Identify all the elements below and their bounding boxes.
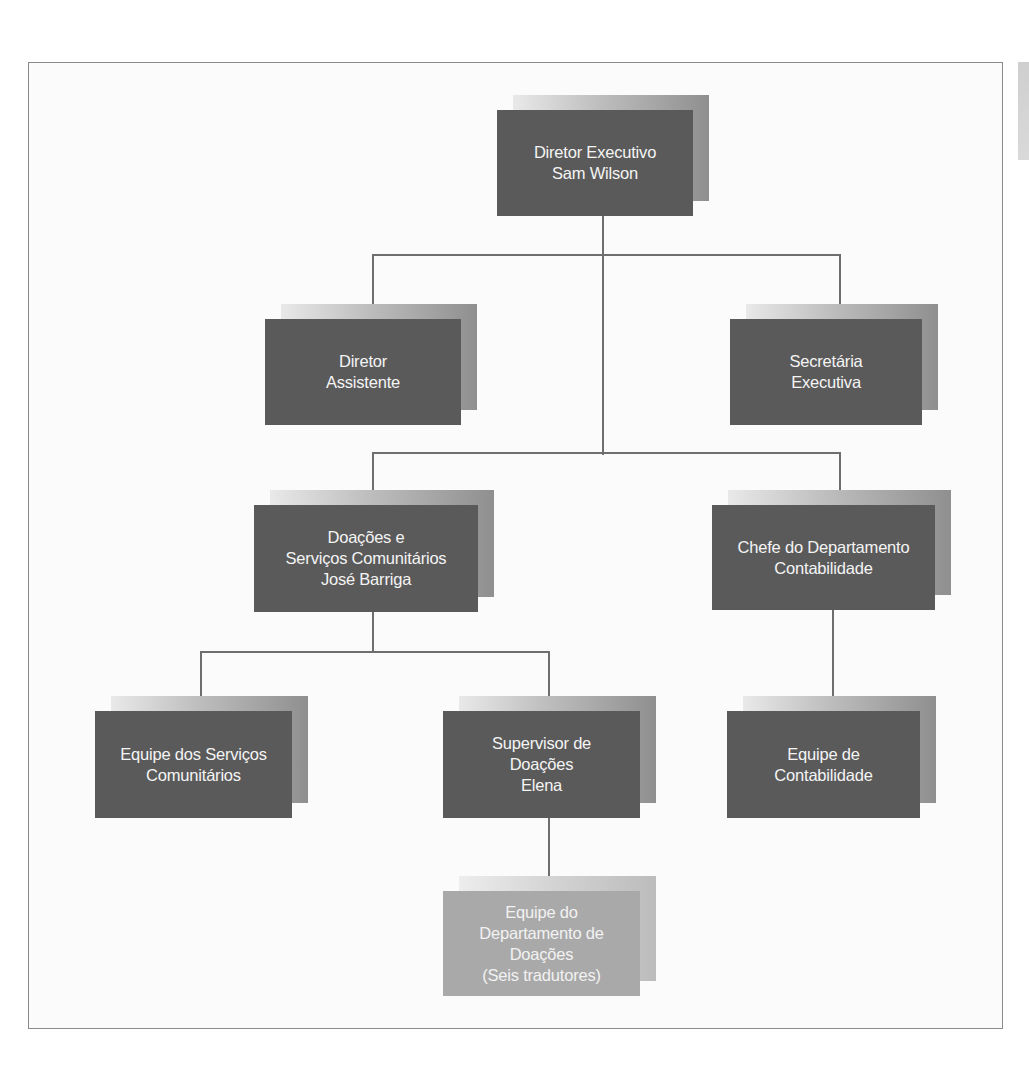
node-title-line: Contabilidade [774,558,872,579]
node-accounting-head: Chefe do Departamento Contabilidade [712,505,935,610]
node-title-line: Departamento de [479,923,604,944]
node-face: Secretária Executiva [730,319,922,425]
node-title-line: Doações [510,754,574,775]
node-face: Equipe do Departamento de Doações (Seis … [443,891,640,996]
node-title-line: Secretária [789,351,862,372]
node-title-line: Doações e [327,527,404,548]
node-title-line: Comunitários [146,765,241,786]
node-title-line: Serviços Comunitários [286,548,447,569]
node-face: Supervisor de Doações Elena [443,711,640,818]
connector-level2-bar [372,254,841,256]
node-assistant-director: Diretor Assistente [265,319,461,425]
node-title-line: Equipe de [787,744,860,765]
connector-donations-trunk [372,612,374,653]
node-face: Doações e Serviços Comunitários José Bar… [254,505,478,612]
node-person: José Barriga [321,569,411,590]
node-donations-community: Doações e Serviços Comunitários José Bar… [254,505,478,612]
node-title-line: Equipe do [505,902,578,923]
node-title-line: Equipe dos Serviços [120,744,267,765]
node-donations-dept-team: Equipe do Departamento de Doações (Seis … [443,891,640,996]
node-person: Sam Wilson [552,163,638,184]
node-donations-supervisor: Supervisor de Doações Elena [443,711,640,818]
node-title-line: Assistente [326,372,400,393]
node-accounting-team: Equipe de Contabilidade [727,711,920,818]
node-face: Equipe de Contabilidade [727,711,920,818]
node-title-line: Diretor [339,351,387,372]
node-person: Elena [521,775,562,796]
node-face: Diretor Executivo Sam Wilson [497,110,693,216]
node-face: Equipe dos Serviços Comunitários [95,711,292,818]
node-ceo: Diretor Executivo Sam Wilson [497,110,693,216]
node-community-services-team: Equipe dos Serviços Comunitários [95,711,292,818]
connector-ceo-trunk [602,216,604,455]
node-face: Chefe do Departamento Contabilidade [712,505,935,610]
page-edge-strip [1018,62,1029,160]
node-title-line: Contabilidade [774,765,872,786]
node-title-line: Executiva [791,372,861,393]
node-title-line: Supervisor de [492,733,591,754]
node-note: (Seis tradutores) [482,965,601,986]
connector-level3-bar [372,452,841,454]
node-executive-secretary: Secretária Executiva [730,319,922,425]
node-title-line: Doações [510,944,574,965]
node-title-line: Chefe do Departamento [738,537,910,558]
node-face: Diretor Assistente [265,319,461,425]
connector-level4-bar [200,651,550,653]
node-title: Diretor Executivo [534,142,656,163]
